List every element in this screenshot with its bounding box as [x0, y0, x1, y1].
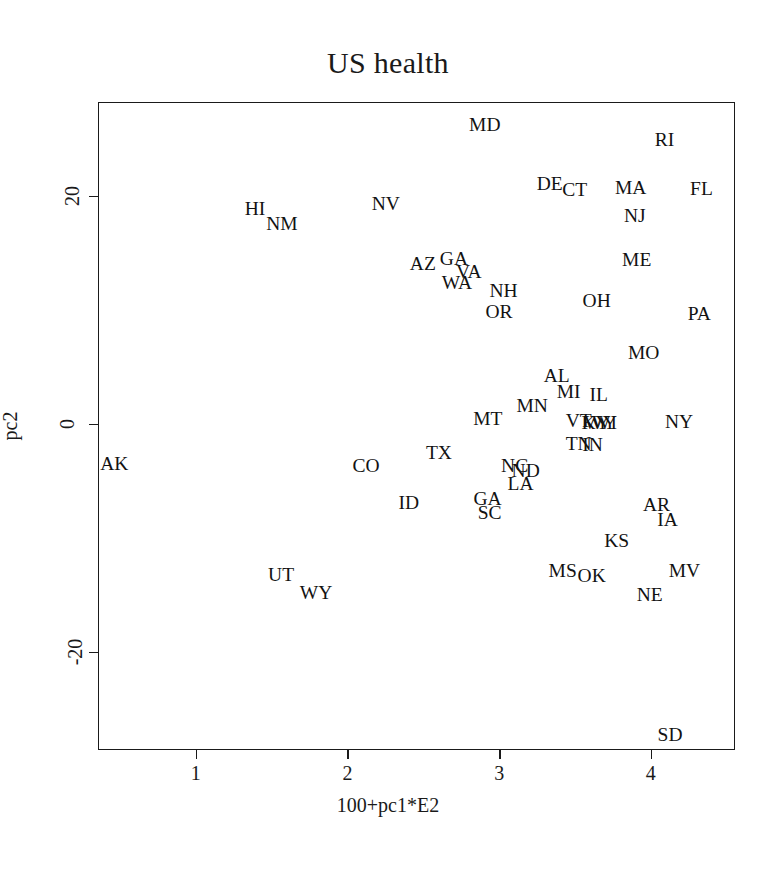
y-axis-label: pc2: [0, 412, 22, 441]
x-axis-tick-label: 1: [191, 762, 201, 785]
x-axis-tick: [347, 750, 349, 759]
y-axis-tick-label: 20: [61, 186, 84, 206]
data-point-label: MV: [669, 562, 700, 582]
y-axis-tick: [89, 424, 98, 426]
data-point-label: TX: [426, 443, 452, 463]
x-axis-tick-label: 4: [646, 762, 656, 785]
data-point-label: MD: [469, 115, 500, 135]
data-point-label: LA: [508, 474, 534, 494]
data-point-label: DE: [537, 174, 563, 194]
data-point-label: MI: [557, 382, 581, 402]
data-point-label: AZ: [410, 254, 436, 274]
data-point-label: SC: [478, 504, 502, 524]
scatter-plot-area: MDRIDEFLHIMACTNVNJNMMEGAVAAZWAOHNHPAORMO…: [98, 102, 735, 750]
data-point-label: ME: [622, 250, 651, 270]
data-point-label: FL: [690, 179, 713, 199]
x-axis-tick-label: 2: [342, 762, 352, 785]
data-point-label: NJ: [624, 206, 646, 226]
y-axis-tick-label: 0: [56, 419, 79, 429]
data-point-label: HI: [245, 199, 266, 219]
data-point-label: OK: [578, 567, 606, 587]
data-point-label: RI: [655, 130, 675, 150]
data-point-label: CO: [352, 456, 379, 476]
data-point-label: NY: [665, 412, 693, 432]
data-point-label: MA: [615, 178, 646, 198]
data-point-label: NH: [489, 281, 517, 301]
data-point-label: NE: [637, 586, 663, 606]
data-point-label: KS: [604, 532, 629, 552]
data-point-label: CT: [562, 180, 587, 200]
data-point-label: ID: [399, 493, 420, 513]
data-point-label: SD: [658, 725, 683, 745]
data-point-label: IL: [589, 385, 607, 405]
data-point-label: IA: [657, 510, 678, 530]
data-point-label: OR: [485, 302, 512, 322]
x-axis-tick: [499, 750, 501, 759]
data-point-label: WY: [300, 584, 333, 604]
y-axis-tick-label: -20: [64, 639, 87, 666]
data-point-label: NV: [372, 194, 400, 214]
data-point-label: OH: [583, 291, 611, 311]
data-point-label: IN: [582, 435, 603, 455]
y-axis-tick: [89, 196, 98, 198]
chart-page: US health MDRIDEFLHIMACTNVNJNMMEGAVAAZWA…: [0, 0, 776, 869]
data-point-label: PA: [688, 304, 711, 324]
x-axis-tick: [196, 750, 198, 759]
data-point-label: UT: [268, 566, 294, 586]
chart-title: US health: [0, 46, 776, 80]
data-point-label: WY: [584, 414, 617, 434]
data-point-label: MO: [628, 343, 659, 363]
y-axis-tick: [89, 652, 98, 654]
x-axis-label: 100+pc1*E2: [0, 794, 776, 817]
data-point-label: AK: [100, 454, 128, 474]
data-point-label: MT: [473, 410, 502, 430]
data-point-label: WA: [442, 273, 472, 293]
x-axis-tick-label: 3: [494, 762, 504, 785]
data-point-label: MN: [517, 397, 548, 417]
data-point-label: NM: [266, 214, 297, 234]
x-axis-tick: [651, 750, 653, 759]
data-point-label: MS: [549, 562, 577, 582]
